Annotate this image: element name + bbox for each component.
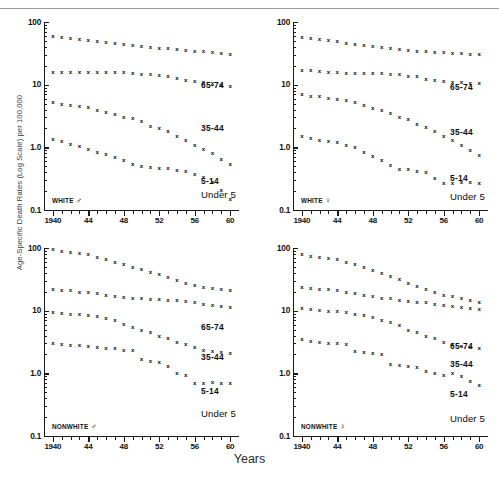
x-tick (168, 437, 169, 440)
data-point: x (193, 78, 196, 84)
data-point: x (95, 149, 98, 155)
data-point: x (336, 287, 339, 293)
data-point: x (353, 290, 356, 296)
x-tick (453, 211, 454, 214)
x-tick (355, 437, 356, 440)
data-point: x (300, 284, 303, 290)
y-tick-major (44, 85, 49, 86)
panel-group-tag: NONWHITE ♂ (52, 422, 97, 431)
data-point: x (175, 339, 178, 345)
data-point: x (344, 309, 347, 315)
x-tick (106, 211, 107, 214)
y-tick-minor (44, 376, 47, 377)
y-tick-label: 0.1 (269, 206, 290, 215)
data-point: x (157, 125, 160, 131)
data-point: x (371, 43, 374, 49)
data-point: x (389, 110, 392, 116)
data-point: x (166, 297, 169, 303)
data-point: x (362, 70, 365, 76)
data-point: x (353, 310, 356, 316)
data-point: x (78, 36, 81, 42)
data-point: x (309, 92, 312, 98)
data-point: x (166, 335, 169, 341)
x-tick (444, 437, 445, 442)
x-tick-label: 56 (430, 216, 458, 225)
data-point: x (318, 307, 321, 313)
x-tick (88, 211, 89, 216)
page-rule (0, 8, 499, 9)
x-tick (373, 437, 374, 442)
data-point: x (95, 106, 98, 112)
y-tick-label: 10 (20, 306, 41, 315)
data-point: x (104, 292, 107, 298)
x-tick (79, 211, 80, 214)
x-tick (453, 437, 454, 440)
data-point: x (327, 138, 330, 144)
x-tick-label: 60 (465, 216, 493, 225)
data-point: x (51, 99, 54, 105)
data-point: x (122, 261, 125, 267)
data-point: x (371, 350, 374, 356)
y-tick-minor (293, 392, 296, 393)
data-point: x (220, 303, 223, 309)
data-point: x (389, 361, 392, 367)
data-point: x (406, 47, 409, 53)
x-tick (311, 211, 312, 214)
data-point: x (318, 36, 321, 42)
panel-race-label: WHITE (301, 197, 323, 204)
data-point: x (477, 152, 480, 158)
data-point: x (104, 109, 107, 115)
data-point: x (300, 336, 303, 342)
data-point: x (309, 306, 312, 312)
panel-race-label: NONWHITE (52, 423, 88, 430)
data-point: x (211, 285, 214, 291)
data-point: x (344, 341, 347, 347)
x-tick (461, 211, 462, 214)
y-tick-minor (293, 161, 296, 162)
y-tick-label: 0.1 (269, 432, 290, 441)
y-tick-major (293, 248, 298, 249)
data-point: x (69, 102, 72, 108)
x-tick-label: 44 (74, 442, 102, 451)
y-axis-line (293, 22, 294, 210)
data-point: x (131, 70, 134, 76)
data-point: x (69, 287, 72, 293)
data-point: x (113, 40, 116, 46)
data-point: x (389, 45, 392, 51)
data-point: x (228, 51, 231, 57)
x-tick (62, 437, 63, 440)
data-point: x (460, 142, 463, 148)
x-tick (150, 211, 151, 214)
data-point: x (415, 364, 418, 370)
x-tick (399, 437, 400, 440)
series-label-5-14: 5-14 (201, 386, 219, 396)
data-point: x (149, 44, 152, 50)
y-tick-minor (44, 383, 47, 384)
y-tick-minor (293, 25, 296, 26)
y-tick-minor (44, 104, 47, 105)
data-point: x (460, 304, 463, 310)
data-point: x (424, 169, 427, 175)
data-point: x (220, 286, 223, 292)
data-point: x (415, 298, 418, 304)
y-tick-minor (44, 47, 47, 48)
data-point: x (327, 339, 330, 345)
x-tick (186, 211, 187, 214)
x-tick (391, 437, 392, 440)
data-point: x (131, 324, 134, 330)
data-point: x (415, 283, 418, 289)
y-tick-minor (44, 161, 47, 162)
data-point: x (451, 303, 454, 309)
data-point: x (157, 296, 160, 302)
data-point: x (131, 295, 134, 301)
data-point: x (87, 343, 90, 349)
y-tick-major (44, 147, 49, 148)
x-tick (204, 437, 205, 440)
y-tick-major (293, 210, 298, 211)
data-point: x (398, 46, 401, 52)
data-point: x (140, 266, 143, 272)
x-tick (364, 437, 365, 440)
y-tick-minor (293, 117, 296, 118)
y-tick-label: 1.0 (20, 369, 41, 378)
y-tick-minor (293, 320, 296, 321)
